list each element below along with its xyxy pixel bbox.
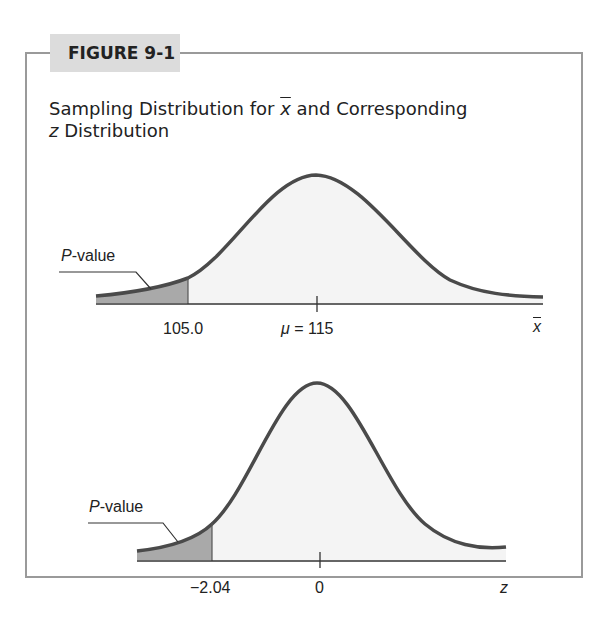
bottom-pvalue-p: P	[89, 498, 100, 515]
bottom-axis-label-z: z	[500, 579, 508, 597]
top-pvalue-p: P	[61, 247, 72, 264]
top-pvalue-leader	[59, 272, 151, 289]
mu-value: = 115	[290, 320, 334, 337]
bottom-pvalue-rest: -value	[100, 498, 144, 515]
bottom-pvalue-shaded-area	[137, 524, 212, 560]
top-distribution-plot	[59, 175, 543, 312]
bottom-pvalue-leader	[88, 523, 178, 542]
top-tick-mu: μ = 115	[281, 320, 334, 338]
top-pvalue-label: P-value	[61, 247, 115, 265]
top-pvalue-rest: -value	[72, 247, 116, 264]
bottom-distribution-plot	[88, 383, 506, 568]
top-tick-105: 105.0	[163, 320, 203, 338]
top-axis-label-xbar: x	[533, 318, 541, 336]
bottom-tick-neg204: −2.04	[190, 579, 230, 597]
bottom-tick-zero: 0	[315, 579, 324, 597]
top-curve-fill	[96, 175, 543, 303]
mu-symbol: μ	[281, 320, 290, 337]
bottom-pvalue-label: P-value	[89, 498, 143, 516]
bottom-curve-fill	[137, 383, 506, 560]
